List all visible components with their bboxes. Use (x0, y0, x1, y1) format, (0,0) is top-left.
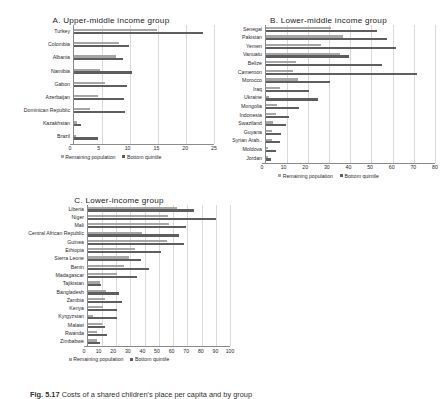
category-label: Madagascar (8, 273, 87, 278)
axis-tick-label: 20 (182, 146, 188, 151)
axis-tick-label: 0 (83, 349, 86, 354)
axis-tick-label: 25 (211, 146, 217, 151)
category-label: Niger (8, 215, 87, 220)
bar-bottom-quintile (74, 85, 128, 87)
bar-bottom-quintile (266, 158, 271, 160)
chart-c-rows: LiberiaNigerMaliCentral African Republic… (8, 205, 230, 346)
bar-bottom-quintile (266, 38, 388, 40)
axis-tick-label: 40 (346, 165, 352, 170)
bar-track (73, 104, 215, 117)
bar-track (87, 329, 231, 337)
bar-track (265, 42, 436, 51)
bar-track (87, 313, 231, 321)
chart-row: Rwanda (8, 329, 230, 337)
chart-row: Zambia (8, 296, 230, 304)
figure-caption-label: Fig. 5.17 (30, 390, 60, 399)
bar-track (73, 38, 215, 51)
axis-tick-label: 90 (213, 349, 219, 354)
bar-bottom-quintile (74, 124, 81, 126)
category-label: Pakistan (222, 35, 265, 40)
chart-row: Ethiopia (8, 246, 230, 254)
chart-row: Dominican Republic (8, 104, 214, 117)
bar-track (265, 102, 436, 111)
category-label: Dominican Republic (8, 108, 73, 113)
bar-track (265, 77, 436, 86)
axis-tick-label: 10 (125, 146, 131, 151)
chart-row: Namibia (8, 65, 214, 78)
category-label: Zambia (8, 298, 87, 303)
chart-row: Guinea (8, 238, 230, 246)
bar-bottom-quintile (266, 133, 282, 135)
chart-a-axis: 0510152025 (8, 144, 214, 154)
axis-tick-label: 30 (324, 165, 330, 170)
legend-label-bottom: Bottom quintile (127, 154, 161, 160)
legend-swatch-bottom-icon (122, 155, 125, 158)
bar-track (87, 280, 231, 288)
bar-bottom-quintile (88, 309, 118, 311)
category-label: Jordan (222, 156, 265, 161)
category-label: Tajikistan (8, 281, 87, 286)
chart-row: Mali (8, 222, 230, 230)
chart-c-plot: LiberiaNigerMaliCentral African Republic… (8, 205, 230, 362)
bar-bottom-quintile (88, 268, 150, 270)
bar-track (265, 51, 436, 60)
category-label: Swaziland (222, 121, 265, 126)
axis-tick-label: 10 (96, 349, 102, 354)
chart-b-axis-line: 01020304050607080 (262, 163, 435, 173)
bar-track (265, 59, 436, 68)
chart-title-a: A. Upper-middle income group (8, 16, 214, 25)
bar-track (73, 78, 215, 91)
category-label: Namibia (8, 69, 73, 74)
bar-bottom-quintile (88, 209, 194, 211)
bar-track (265, 68, 436, 77)
axis-tick-label: 10 (281, 165, 287, 170)
bar-track (87, 246, 231, 254)
category-label: Albania (8, 55, 73, 60)
legend-label-remaining: Remaining population (65, 154, 115, 160)
bar-track (73, 131, 215, 144)
bar-bottom-quintile (266, 47, 396, 49)
category-label: Brazil (8, 134, 73, 139)
legend-item-bottom: Bottom quintile (340, 173, 379, 179)
bar-bottom-quintile (266, 90, 309, 92)
chart-row: Jordan (222, 154, 435, 163)
chart-row: Central African Republic (8, 230, 230, 238)
category-label: Turkey (8, 29, 73, 34)
category-label: Syrian Arab.. (222, 138, 265, 143)
category-label: Benin (8, 265, 87, 270)
axis-tick-label: 100 (226, 349, 235, 354)
axis-tick-label: 70 (410, 165, 416, 170)
axis-tick-label: 70 (183, 349, 189, 354)
legend-label-remaining: Remaining population (283, 173, 333, 179)
bar-bottom-quintile (88, 226, 186, 228)
chart-row: Gabon (8, 78, 214, 91)
chart-row: Iraq (222, 85, 435, 94)
bar-track (265, 154, 436, 163)
bar-track (87, 255, 231, 263)
chart-panel-lower-income: C. Lower-income group LiberiaNigerMaliCe… (8, 196, 230, 362)
bar-bottom-quintile (88, 292, 119, 294)
chart-row: Azerbaijan (8, 91, 214, 104)
chart-row: Vanuatu (222, 51, 435, 60)
chart-row: Cameroon (222, 68, 435, 77)
chart-b-axis: 01020304050607080 (222, 163, 435, 173)
category-label: Zimbabwe (8, 339, 87, 344)
category-label: Bangladesh (8, 290, 87, 295)
bar-bottom-quintile (74, 58, 123, 60)
bar-track (87, 205, 231, 213)
bar-track (87, 338, 231, 346)
axis-tick-label: 0 (69, 146, 72, 151)
bar-track (73, 25, 215, 38)
legend-label-remaining: Remaining population (73, 356, 123, 362)
chart-c-axis-line: 0102030405060708090100 (84, 346, 230, 356)
category-label: Kyrgyzstan (8, 314, 87, 319)
bar-track (265, 85, 436, 94)
category-label: Kazakhstan (8, 121, 73, 126)
axis-tick-label: 20 (110, 349, 116, 354)
category-label: Vanuatu (222, 52, 265, 57)
bar-track (87, 288, 231, 296)
bar-bottom-quintile (266, 55, 350, 57)
chart-a-rows: TurkeyColombiaAlbaniaNamibiaGabonAzerbai… (8, 25, 214, 144)
chart-row: Syrian Arab.. (222, 137, 435, 146)
category-label: Azerbaijan (8, 95, 73, 100)
